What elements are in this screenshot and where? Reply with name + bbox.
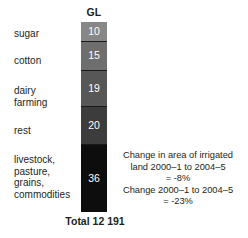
category-label-column: sugar cotton dairy farming rest livestoc… — [0, 22, 78, 212]
bar-segment-value-sugar: 10 — [88, 26, 100, 37]
category-label-dairy-line2: farming — [14, 97, 47, 108]
stacked-bar-chart: 10 15 19 20 36 — [81, 22, 107, 212]
bar-segment-livestock: 36 — [81, 145, 107, 212]
category-label-livestock-line3: grains, — [14, 177, 44, 188]
category-label-livestock-line2: pasture, — [14, 166, 50, 177]
column-header-gl: GL — [81, 6, 107, 18]
bar-segment-sugar: 10 — [81, 22, 107, 42]
annotation-line-4: Change 2000–1 to 2004–5 — [110, 185, 246, 197]
chart-annotation: Change in area of irrigated land 2000–1 … — [110, 150, 246, 208]
bar-segment-value-livestock: 36 — [88, 173, 100, 184]
bar-segment-cotton: 15 — [81, 42, 107, 71]
category-label-rest: rest — [14, 125, 76, 137]
bar-segment-dairy-farming: 19 — [81, 71, 107, 107]
bar-segment-rest: 20 — [81, 107, 107, 145]
category-label-sugar: sugar — [14, 28, 76, 40]
annotation-line-3: = -8% — [110, 173, 246, 185]
annotation-line-2: land 2000–1 to 2004–5 — [110, 162, 246, 174]
category-label-livestock-line4: commodities — [14, 189, 70, 200]
category-label-dairy-line1: dairy — [14, 85, 36, 96]
bar-segment-value-dairy-farming: 19 — [88, 83, 100, 94]
category-label-livestock: livestock, pasture, grains, commodities — [14, 154, 76, 200]
annotation-line-5: = -23% — [110, 196, 246, 208]
bar-segment-value-cotton: 15 — [88, 50, 100, 61]
total-caption: Total 12 191 — [20, 215, 170, 227]
bar-segment-value-rest: 20 — [88, 120, 100, 131]
annotation-line-1: Change in area of irrigated — [110, 150, 246, 162]
category-label-dairy-farming: dairy farming — [14, 85, 76, 108]
category-label-livestock-line1: livestock, — [14, 154, 55, 165]
category-label-cotton: cotton — [14, 55, 76, 67]
